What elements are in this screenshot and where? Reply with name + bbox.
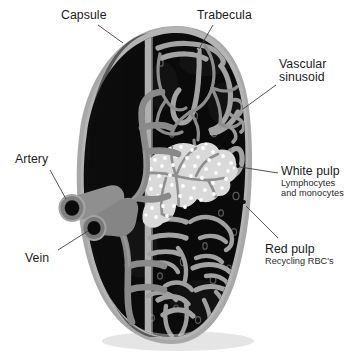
label-white-pulp-sub1: Lymphocytes xyxy=(281,179,344,189)
label-vascular-sinusoid-line2: sinusoid xyxy=(279,71,326,84)
anchor-dot-white-pulp xyxy=(236,164,240,168)
label-artery: Artery xyxy=(15,153,48,166)
leader-line-artery xyxy=(50,170,66,199)
label-trabecula-title: Trabecula xyxy=(197,9,252,22)
label-red-pulp: Red pulp Recycling RBC's xyxy=(265,243,334,267)
anchor-dot-capsule xyxy=(141,44,145,48)
label-capsule: Capsule xyxy=(61,9,107,22)
label-vein: Vein xyxy=(25,252,49,265)
label-white-pulp: White pulp Lymphocytes and monocytes xyxy=(281,165,344,199)
label-artery-title: Artery xyxy=(15,153,48,166)
label-trabecula: Trabecula xyxy=(197,9,252,22)
label-vascular-sinusoid: Vascular sinusoid xyxy=(279,58,326,85)
spleen-anatomy-figure: Capsule Trabecula Vascular sinusoid Arte… xyxy=(0,0,361,356)
label-capsule-title: Capsule xyxy=(61,9,107,22)
label-vein-title: Vein xyxy=(25,252,49,265)
label-white-pulp-sub2: and monocytes xyxy=(281,189,344,199)
anchor-dot-trabecula xyxy=(194,49,198,53)
anchor-dot-red-pulp xyxy=(242,200,246,204)
leader-line-red-pulp xyxy=(246,206,278,238)
label-red-pulp-title: Red pulp xyxy=(265,243,334,256)
label-vascular-sinusoid-line1: Vascular xyxy=(279,58,326,71)
label-red-pulp-sub1: Recycling RBC's xyxy=(265,257,334,267)
label-white-pulp-title: White pulp xyxy=(281,165,344,178)
leader-line-vascular-sinusoid xyxy=(243,85,276,109)
leader-line-capsule xyxy=(98,25,123,43)
